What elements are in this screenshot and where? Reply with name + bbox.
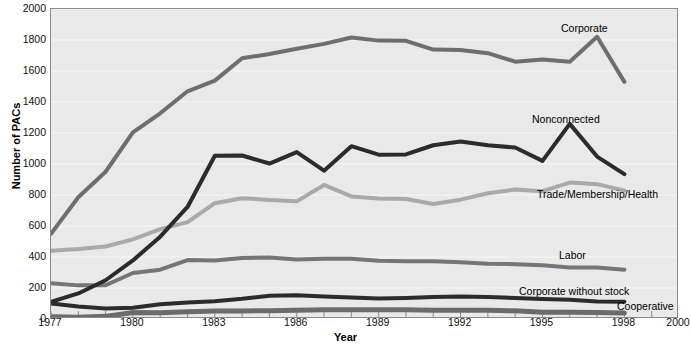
- x-tick-label: 1986: [274, 316, 318, 328]
- plot-svg: [51, 9, 678, 318]
- x-tick-label: 1998: [601, 316, 645, 328]
- series-label-corporate: Corporate: [561, 22, 608, 34]
- series-label-labor: Labor: [559, 249, 586, 261]
- series-label-corporate-without-stock: Corporate without stock: [519, 285, 629, 297]
- y-tick-label: 1600: [6, 65, 46, 75]
- x-tick-label: 1995: [519, 316, 563, 328]
- x-tick-label: 1977: [28, 316, 72, 328]
- plot-area: [50, 8, 678, 318]
- series-line-corporate: [51, 37, 624, 234]
- y-tick-label: 1400: [6, 96, 46, 106]
- y-tick-label: 1200: [6, 127, 46, 137]
- x-tick-label: 1989: [356, 316, 400, 328]
- y-tick-label: 800: [6, 189, 46, 199]
- y-axis-tick-labels: 0200400600800100012001400160018002000: [0, 0, 46, 330]
- x-tick-label: 2000: [656, 316, 691, 328]
- x-tick-label: 1992: [438, 316, 482, 328]
- y-tick-label: 400: [6, 251, 46, 261]
- series-line-labor: [51, 258, 624, 286]
- series-label-cooperative: Cooperative: [617, 300, 674, 312]
- y-tick-label: 1000: [6, 158, 46, 168]
- series-label-trade-membership-health: Trade/Membership/Health: [537, 188, 658, 200]
- y-tick-label: 1800: [6, 34, 46, 44]
- x-axis-title: Year: [0, 331, 691, 343]
- x-tick-label: 1983: [192, 316, 236, 328]
- y-tick-label: 600: [6, 220, 46, 230]
- series-line-corporate-without-stock: [51, 295, 624, 308]
- series-line-nonconnected: [51, 124, 624, 302]
- y-tick-label: 200: [6, 282, 46, 292]
- pac-growth-line-chart: Number of PACs 0200400600800100012001400…: [0, 0, 691, 349]
- series-label-nonconnected: Nonconnected: [532, 113, 600, 125]
- y-tick-label: 2000: [6, 3, 46, 13]
- x-tick-label: 1980: [110, 316, 154, 328]
